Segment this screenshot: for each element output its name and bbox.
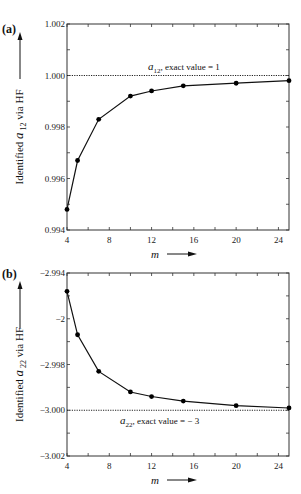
data-point	[181, 399, 186, 404]
y-tick-label: −2	[55, 314, 65, 324]
x-tick-label: 12	[147, 461, 156, 471]
panel-label: (b)	[2, 267, 17, 281]
y-tick-label: 0.996	[45, 174, 66, 184]
x-tick-label: 16	[189, 235, 199, 245]
y-arrow-icon	[18, 32, 23, 40]
x-tick-label: 8	[107, 235, 112, 245]
exact-value-annotation: a22, exact value = − 3	[120, 414, 200, 429]
x-tick-label: 8	[107, 461, 112, 471]
data-point	[75, 332, 80, 337]
data-point	[128, 94, 133, 99]
x-tick-label: 20	[232, 235, 242, 245]
x-arrow-icon	[188, 252, 197, 257]
panel-b: 4812162024−3.002−3.000−2.998−2−2.994a22,…	[2, 267, 291, 486]
data-point	[65, 207, 70, 212]
x-tick-label: 4	[65, 235, 70, 245]
y-tick-label: 1.000	[45, 71, 66, 81]
x-tick-label: 12	[147, 235, 156, 245]
data-point	[128, 390, 133, 395]
y-tick-label: 0.994	[45, 225, 66, 235]
y-tick-label: −2.994	[40, 268, 66, 278]
y-axis-title: Identified a 22 via HF	[11, 327, 28, 422]
data-point	[75, 158, 80, 163]
y-axis-title: Identified a 12 via HF	[11, 89, 28, 184]
x-tick-label: 20	[232, 461, 242, 471]
data-point	[96, 369, 101, 374]
plot-frame	[67, 24, 289, 230]
data-point	[287, 78, 292, 83]
y-tick-label: 1.002	[45, 19, 65, 29]
figure: 48121620240.9940.9960.9981.0001.002a12, …	[0, 0, 301, 494]
y-tick-label: 0.998	[45, 122, 66, 132]
data-line	[67, 81, 289, 210]
data-point	[65, 289, 70, 294]
data-point	[96, 117, 101, 122]
data-point	[287, 406, 292, 411]
y-tick-label: −3.002	[40, 451, 65, 461]
data-point	[149, 394, 154, 399]
data-point	[181, 83, 186, 88]
x-tick-label: 16	[189, 461, 199, 471]
data-point	[234, 81, 239, 86]
panel-a: 48121620240.9940.9960.9981.0001.002a12, …	[2, 19, 291, 260]
x-axis-title: m	[151, 474, 159, 486]
panel-label: (a)	[2, 22, 16, 36]
plot-frame	[67, 273, 289, 456]
y-arrow-icon	[18, 281, 23, 289]
x-tick-label: 4	[65, 461, 70, 471]
data-point	[234, 403, 239, 408]
x-arrow-icon	[188, 478, 197, 483]
y-tick-label: −3.000	[40, 405, 66, 415]
y-tick-label: −2.998	[40, 360, 66, 370]
data-line	[67, 291, 289, 408]
data-point	[149, 89, 154, 94]
x-axis-title: m	[151, 248, 159, 260]
x-tick-label: 24	[274, 461, 284, 471]
x-tick-label: 24	[274, 235, 284, 245]
exact-value-annotation: a12, exact value = 1	[148, 60, 220, 75]
